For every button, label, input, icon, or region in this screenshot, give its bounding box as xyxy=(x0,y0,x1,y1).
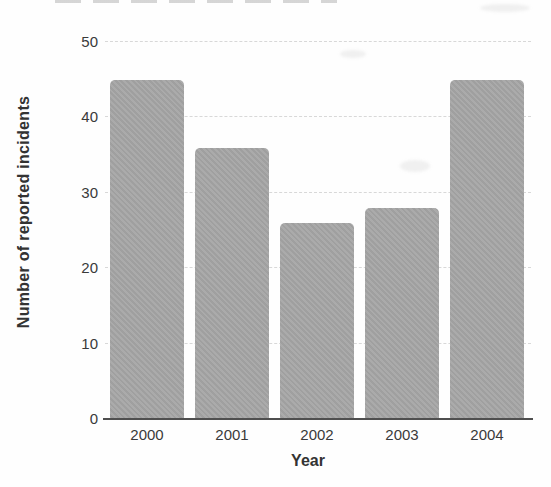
x-tick-label-2003: 2003 xyxy=(367,426,437,443)
bar-chart-figure: Number of reported incidents 01020304050… xyxy=(0,0,551,487)
bar-2000 xyxy=(110,80,184,419)
y-tick-label-20: 20 xyxy=(58,259,98,276)
x-axis-line xyxy=(103,418,533,420)
y-tick-label-0: 0 xyxy=(58,410,98,427)
plot-area xyxy=(105,42,531,419)
bar-2001 xyxy=(195,148,269,419)
x-axis-title: Year xyxy=(291,452,325,470)
y-tick-label-40: 40 xyxy=(58,108,98,125)
y-axis-title: Number of reported incidents xyxy=(15,96,33,328)
bar-2003 xyxy=(365,208,439,419)
gridline-50 xyxy=(105,41,531,42)
scan-artifact xyxy=(480,4,530,12)
y-tick-label-30: 30 xyxy=(58,184,98,201)
x-tick-label-2004: 2004 xyxy=(452,426,522,443)
bar-2004 xyxy=(450,80,524,419)
cropped-text-artifact xyxy=(55,0,337,3)
x-tick-label-2000: 2000 xyxy=(112,426,182,443)
x-tick-label-2001: 2001 xyxy=(197,426,267,443)
y-tick-label-50: 50 xyxy=(58,33,98,50)
bar-2002 xyxy=(280,223,354,419)
y-tick-label-10: 10 xyxy=(58,335,98,352)
x-tick-label-2002: 2002 xyxy=(282,426,352,443)
